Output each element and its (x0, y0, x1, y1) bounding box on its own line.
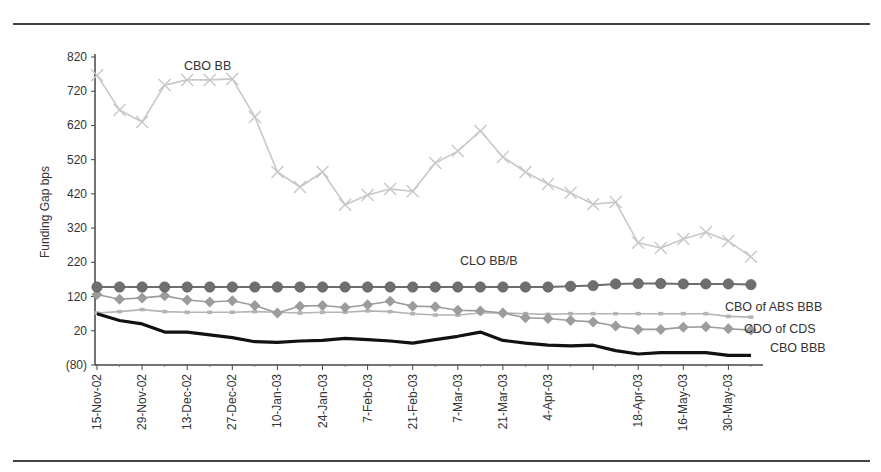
x-tick-label: 29-Nov-02 (135, 374, 149, 430)
y-tick-label: 420 (67, 187, 87, 201)
x-tick-label: 21-Feb-03 (406, 374, 420, 430)
y-tick-label: 520 (67, 153, 87, 167)
x-tick-label: 10-Jan-03 (270, 374, 284, 428)
series-label: CBO of ABS BBB (725, 300, 822, 314)
x-axis: 15-Nov-0229-Nov-0213-Dec-0227-Dec-0210-J… (90, 365, 763, 431)
x-tick-label: 24-Jan-03 (316, 374, 330, 428)
x-tick-label: 7-Feb-03 (361, 374, 375, 423)
y-tick-label: 20 (74, 324, 88, 338)
series-label: CBO BBB (770, 341, 826, 355)
x-tick-label: 30-May-03 (721, 374, 735, 432)
plot-area (91, 69, 757, 355)
y-tick-label: 620 (67, 118, 87, 132)
y-tick-label: 720 (67, 84, 87, 98)
series-label: CBO BB (184, 59, 231, 73)
series-label: CDO of CDS (744, 322, 816, 336)
y-tick-label: (80) (66, 358, 87, 372)
series-cbo-of-abs-bbb (95, 308, 754, 319)
series-cbo-bb (91, 69, 757, 263)
y-tick-label: 120 (67, 290, 87, 304)
y-tick-label: 820 (67, 50, 87, 64)
y-tick-label: 320 (67, 221, 87, 235)
series-clo-bb-b (92, 278, 756, 292)
x-tick-label: 27-Dec-02 (225, 374, 239, 430)
x-tick-label: 13-Dec-02 (180, 374, 194, 430)
series-cbo-bbb (97, 314, 751, 356)
x-tick-label: 15-Nov-02 (90, 374, 104, 430)
x-tick-label: 18-Apr-03 (631, 374, 645, 428)
x-tick-label: 21-Mar-03 (496, 374, 510, 430)
y-axis: 82072062052042032022012020(80) (66, 50, 95, 372)
x-tick-label: 4-Apr-03 (541, 374, 555, 421)
x-tick-label: 7-Mar-03 (451, 374, 465, 423)
y-axis-title: Funding Gap bps (38, 166, 52, 258)
line-chart: 82072062052042032022012020(80) 15-Nov-02… (0, 0, 881, 472)
series-label: CLO BB/B (460, 254, 518, 268)
y-tick-label: 220 (67, 255, 87, 269)
x-tick-label: 16-May-03 (676, 374, 690, 432)
